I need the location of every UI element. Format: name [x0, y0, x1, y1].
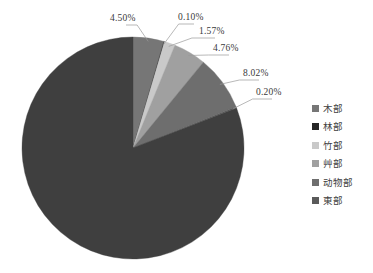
legend-item-label: 東部 [323, 196, 343, 206]
legend-color-swatch-icon [312, 123, 319, 130]
legend-item[interactable]: 竹部 [312, 136, 372, 155]
pie-value-label: 1.57% [199, 27, 225, 37]
legend-color-swatch-icon [312, 160, 319, 167]
label-leader-line [163, 24, 194, 45]
legend-item[interactable]: 木部 [312, 99, 372, 118]
pie-chart: 4.50%0.10%1.57%4.76%8.02%0.20% 木部林部竹部艸部动… [0, 0, 373, 273]
pie-value-label: 8.02% [243, 69, 269, 79]
legend-color-swatch-icon [312, 179, 319, 186]
legend-item-label: 艸部 [323, 159, 343, 169]
label-leader-line [188, 55, 229, 56]
pie-value-label: 4.76% [213, 44, 239, 54]
legend-color-swatch-icon [312, 142, 319, 149]
legend-color-swatch-icon [312, 197, 319, 204]
pie-value-label: 4.50% [110, 14, 136, 24]
label-leader-line [169, 38, 215, 46]
legend-item-label: 竹部 [323, 141, 343, 151]
label-leader-line [233, 99, 272, 109]
label-leader-line [220, 80, 259, 84]
legend-item[interactable]: 艸部 [312, 155, 372, 174]
pie-slices-group [22, 37, 244, 259]
legend-color-swatch-icon [312, 105, 319, 112]
pie-value-label: 0.20% [256, 88, 282, 98]
legend-item-label: 木部 [323, 104, 343, 114]
legend-item-label: 林部 [323, 122, 343, 132]
chart-legend: 木部林部竹部艸部动物部東部 [312, 99, 372, 210]
legend-item-label: 动物部 [323, 178, 353, 188]
pie-value-label: 0.10% [178, 13, 204, 23]
legend-item[interactable]: 动物部 [312, 173, 372, 192]
legend-item[interactable]: 林部 [312, 118, 372, 137]
legend-item[interactable]: 東部 [312, 192, 372, 211]
